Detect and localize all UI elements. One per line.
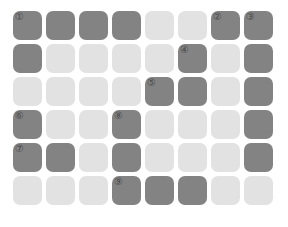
grid-cell[interactable] (178, 11, 207, 40)
grid-row: ⑨ (13, 176, 278, 205)
grid-cell[interactable] (145, 44, 174, 73)
cell-marker-number: ② (213, 11, 222, 22)
grid-cell[interactable] (244, 77, 273, 106)
grid-rows: ①②③④⑤⑥⑧⑦⑨ (13, 11, 278, 205)
grid-cell[interactable] (46, 176, 75, 205)
grid-cell[interactable] (13, 176, 42, 205)
grid-cell[interactable]: ⑥ (13, 110, 42, 139)
grid-cell[interactable] (145, 110, 174, 139)
grid-cell[interactable] (178, 110, 207, 139)
grid-cell[interactable] (145, 176, 174, 205)
grid-cell[interactable] (79, 110, 108, 139)
grid-cell[interactable]: ⑧ (112, 110, 141, 139)
grid-cell[interactable] (79, 77, 108, 106)
grid-cell[interactable] (178, 176, 207, 205)
grid-cell[interactable]: ⑤ (145, 77, 174, 106)
grid-cell[interactable] (13, 44, 42, 73)
cell-marker-number: ⑧ (114, 110, 123, 121)
grid-cell[interactable] (244, 176, 273, 205)
grid-row: ④ (13, 44, 278, 73)
grid-row: ⑦ (13, 143, 278, 172)
grid-cell[interactable] (112, 77, 141, 106)
grid-cell[interactable] (46, 11, 75, 40)
grid-board: ①②③④⑤⑥⑧⑦⑨ (0, 0, 288, 227)
grid-row: ⑤ (13, 77, 278, 106)
grid-cell[interactable] (112, 143, 141, 172)
grid-cell[interactable] (244, 110, 273, 139)
grid-cell[interactable] (178, 77, 207, 106)
cell-marker-number: ⑨ (114, 176, 123, 187)
grid-cell[interactable] (211, 110, 240, 139)
grid-row: ⑥⑧ (13, 110, 278, 139)
cell-marker-number: ④ (180, 44, 189, 55)
grid-cell[interactable]: ⑦ (13, 143, 42, 172)
grid-cell[interactable] (79, 11, 108, 40)
grid-cell[interactable]: ① (13, 11, 42, 40)
grid-cell[interactable] (46, 110, 75, 139)
grid-cell[interactable] (46, 44, 75, 73)
grid-cell[interactable] (244, 143, 273, 172)
grid-cell[interactable]: ③ (244, 11, 273, 40)
grid-cell[interactable] (178, 143, 207, 172)
cell-marker-number: ⑦ (15, 143, 24, 154)
grid-cell[interactable] (211, 44, 240, 73)
grid-cell[interactable] (79, 44, 108, 73)
grid-cell[interactable] (145, 11, 174, 40)
cell-marker-number: ⑤ (147, 77, 156, 88)
grid-cell[interactable] (46, 77, 75, 106)
grid-cell[interactable] (211, 176, 240, 205)
grid-cell[interactable] (112, 44, 141, 73)
grid-cell[interactable]: ⑨ (112, 176, 141, 205)
grid-row: ①②③ (13, 11, 278, 40)
grid-cell[interactable] (211, 143, 240, 172)
grid-cell[interactable] (79, 143, 108, 172)
grid-cell[interactable]: ④ (178, 44, 207, 73)
grid-cell[interactable] (112, 11, 141, 40)
grid-cell[interactable] (79, 176, 108, 205)
cell-marker-number: ⑥ (15, 110, 24, 121)
grid-cell[interactable] (244, 44, 273, 73)
cell-marker-number: ③ (246, 11, 255, 22)
grid-cell[interactable] (145, 143, 174, 172)
cell-marker-number: ① (15, 11, 24, 22)
grid-cell[interactable] (46, 143, 75, 172)
grid-cell[interactable] (211, 77, 240, 106)
grid-cell[interactable]: ② (211, 11, 240, 40)
grid-cell[interactable] (13, 77, 42, 106)
